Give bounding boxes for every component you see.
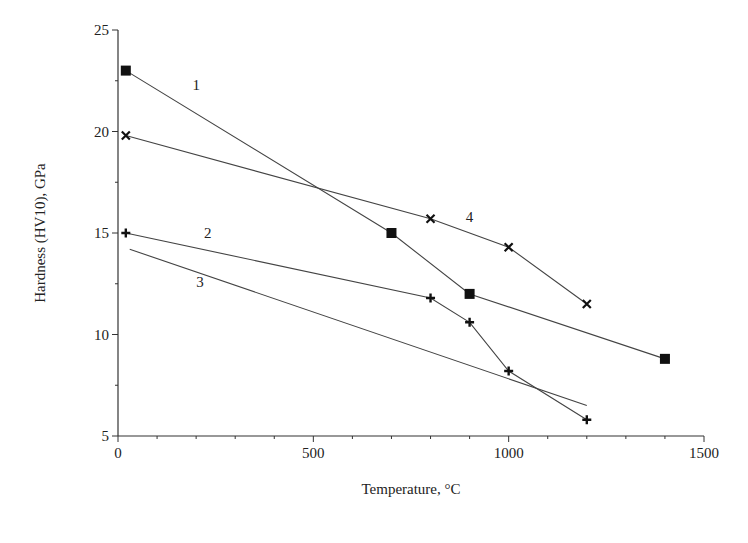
y-tick-label: 10 (94, 327, 109, 343)
series-line (130, 249, 587, 405)
cross-marker (122, 132, 130, 140)
plus-marker (121, 229, 130, 238)
y-tick-label: 25 (94, 22, 109, 38)
x-tick-label: 1500 (689, 445, 719, 461)
cross-marker (505, 243, 513, 251)
square-marker (660, 354, 670, 364)
x-tick-label: 500 (302, 445, 325, 461)
axes: 510152025050010001500 (94, 22, 719, 461)
plot-area: 1234 (121, 66, 670, 425)
series-label: 4 (466, 209, 474, 225)
series-label: 1 (192, 77, 200, 93)
x-axis-title: Temperature, °C (361, 481, 460, 497)
series-2: 2 (121, 225, 591, 424)
series-label: 3 (196, 274, 204, 290)
square-marker (465, 289, 475, 299)
y-tick-label: 5 (102, 428, 110, 444)
series-3: 3 (130, 249, 587, 405)
y-tick-label: 20 (94, 124, 109, 140)
y-axis-title: Hardness (HV10), GPa (32, 163, 49, 303)
y-tick-label: 15 (94, 225, 109, 241)
series-line (126, 71, 665, 359)
cross-marker (583, 300, 591, 308)
x-tick-label: 0 (114, 445, 122, 461)
square-marker (121, 66, 131, 76)
x-tick-label: 1000 (494, 445, 524, 461)
series-line (126, 136, 587, 304)
square-marker (386, 228, 396, 238)
hardness-vs-temperature-chart: 510152025050010001500 1234 Temperature, … (0, 0, 748, 543)
plus-marker (582, 415, 591, 424)
plus-marker (426, 293, 435, 302)
series-label: 2 (204, 225, 212, 241)
cross-marker (427, 215, 435, 223)
series-1: 1 (121, 66, 670, 364)
